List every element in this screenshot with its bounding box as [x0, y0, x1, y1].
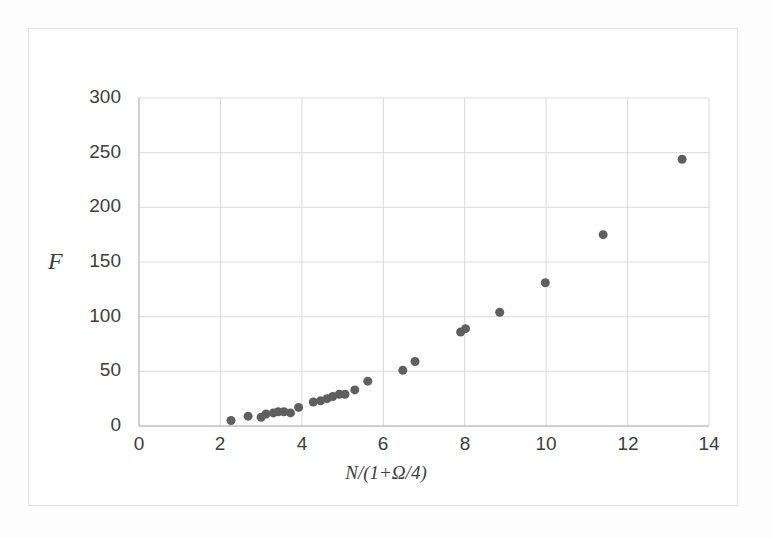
data-point	[350, 385, 359, 394]
x-tick-label-6: 6	[363, 433, 403, 455]
data-point	[541, 278, 550, 287]
x-tick-label-2: 2	[200, 433, 240, 455]
data-point	[411, 357, 420, 366]
x-tick-label-10: 10	[526, 433, 566, 455]
y-tick-label-250: 250	[59, 141, 121, 163]
x-axis-title: N/(1+Ω/4)	[0, 462, 772, 484]
data-point	[495, 308, 504, 317]
data-point	[244, 412, 253, 421]
y-tick-label-100: 100	[59, 305, 121, 327]
y-tick-label-50: 50	[59, 359, 121, 381]
gridlines	[139, 98, 709, 426]
y-tick-label-300: 300	[59, 86, 121, 108]
x-tick-label-12: 12	[608, 433, 648, 455]
data-point	[398, 366, 407, 375]
x-tick-label-4: 4	[282, 433, 322, 455]
y-tick-label-150: 150	[59, 250, 121, 272]
data-point	[294, 403, 303, 412]
y-axis-title: F	[48, 248, 63, 275]
data-point	[678, 155, 687, 164]
x-tick-label-14: 14	[689, 433, 729, 455]
data-markers	[227, 155, 687, 425]
data-point	[461, 324, 470, 333]
chart-frame: 300 250 200 150 100 50 0 0 2 4 6 8 10 12…	[28, 28, 738, 506]
data-point	[363, 377, 372, 386]
data-point	[599, 230, 608, 239]
y-tick-label-200: 200	[59, 195, 121, 217]
y-tick-label-0: 0	[59, 414, 121, 436]
figure-canvas: 300 250 200 150 100 50 0 0 2 4 6 8 10 12…	[0, 0, 772, 538]
x-tick-label-8: 8	[445, 433, 485, 455]
x-tick-label-0: 0	[119, 433, 159, 455]
data-point	[341, 390, 350, 399]
data-point	[286, 408, 295, 417]
data-point	[227, 416, 236, 425]
